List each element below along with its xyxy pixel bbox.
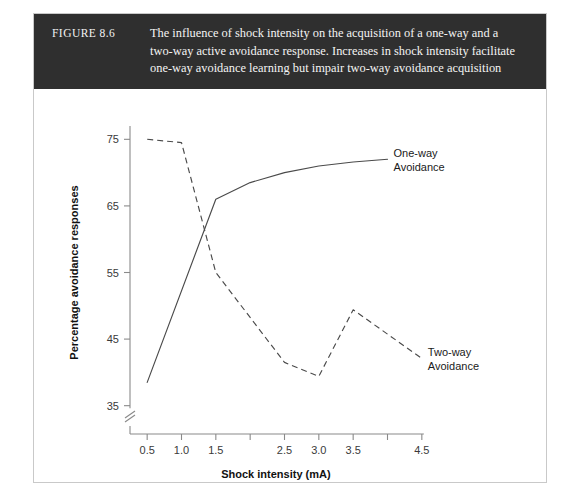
series-label-line1: One-way bbox=[394, 147, 439, 159]
x-axis-title: Shock intensity (mA) bbox=[221, 468, 331, 480]
y-tick-label: 35 bbox=[107, 400, 119, 412]
x-tick-label: 1.5 bbox=[208, 444, 223, 456]
series-line-1 bbox=[147, 159, 387, 382]
y-axis-title: Percentage avoidance responses bbox=[68, 185, 80, 359]
x-tick-label: 3.0 bbox=[311, 444, 326, 456]
x-tick-label: 2.5 bbox=[277, 444, 292, 456]
y-tick-label: 55 bbox=[107, 267, 119, 279]
figure-container: FIGURE 8.6 The influence of shock intens… bbox=[33, 13, 547, 483]
figure-header-band: FIGURE 8.6 The influence of shock intens… bbox=[34, 14, 546, 89]
y-tick-label: 65 bbox=[107, 200, 119, 212]
chart-plot-area: 35455565750.51.01.52.53.03.54.5Shock int… bbox=[34, 89, 546, 483]
series-label-line1: Two-way bbox=[428, 346, 472, 358]
avoidance-line-chart: 35455565750.51.01.52.53.03.54.5Shock int… bbox=[34, 89, 546, 483]
x-tick-label: 0.5 bbox=[140, 444, 155, 456]
figure-caption: The influence of shock intensity on the … bbox=[150, 14, 546, 78]
chart-series-labels: One-wayAvoidanceTwo-wayAvoidance bbox=[394, 147, 480, 372]
y-tick-label: 45 bbox=[107, 333, 119, 345]
figure-number: FIGURE 8.6 bbox=[34, 14, 150, 39]
y-tick-label: 75 bbox=[107, 133, 119, 145]
x-tick-label: 3.5 bbox=[346, 444, 361, 456]
x-tick-label: 4.5 bbox=[414, 444, 429, 456]
chart-series bbox=[147, 139, 422, 382]
chart-axes: 35455565750.51.01.52.53.03.54.5Shock int… bbox=[68, 126, 429, 480]
series-label-line2: Avoidance bbox=[428, 360, 479, 372]
figure-page: FIGURE 8.6 The influence of shock intens… bbox=[0, 0, 577, 498]
x-tick-label: 1.0 bbox=[174, 444, 189, 456]
series-line-2 bbox=[147, 139, 422, 376]
series-label-line2: Avoidance bbox=[394, 161, 445, 173]
